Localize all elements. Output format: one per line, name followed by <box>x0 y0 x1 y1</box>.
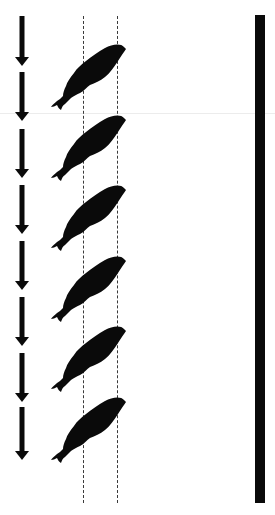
down-arrow-icon <box>14 185 30 234</box>
diagram-canvas: Sequence of six fish silhouettes swimmin… <box>0 0 275 515</box>
fish-silhouette-icon <box>50 255 128 325</box>
fish-silhouette-icon <box>50 396 128 466</box>
down-arrow-icon <box>14 353 30 402</box>
down-arrow-icon <box>14 407 30 460</box>
down-arrow-icon <box>14 297 30 346</box>
fish-silhouette-icon <box>50 184 128 254</box>
wall-bar <box>255 15 265 503</box>
down-arrow-icon <box>14 72 30 121</box>
down-arrow-icon <box>14 129 30 178</box>
scan-artifact-line <box>0 113 275 114</box>
fish-silhouette-icon <box>50 114 128 184</box>
fish-silhouette-icon <box>50 325 128 395</box>
fish-silhouette-icon <box>50 43 128 113</box>
down-arrow-icon <box>14 241 30 290</box>
down-arrow-icon <box>14 16 30 66</box>
